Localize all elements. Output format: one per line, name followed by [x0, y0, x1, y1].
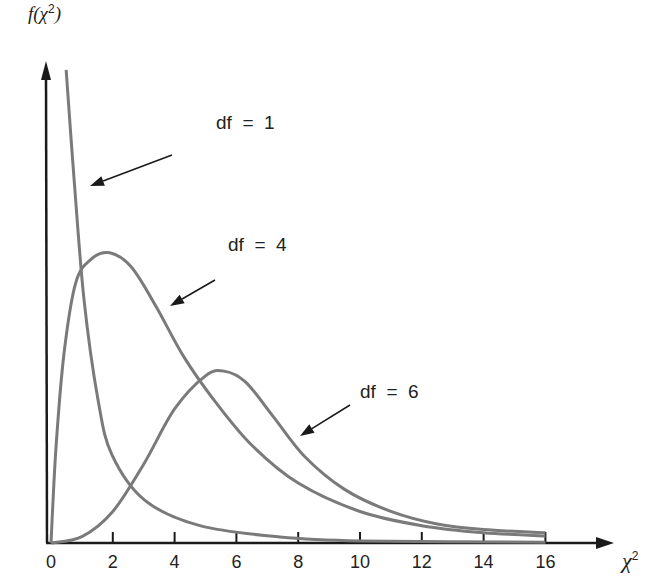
plot-area [0, 0, 670, 587]
arrowhead-icon [170, 295, 185, 306]
x-tick-label: 12 [412, 552, 432, 573]
annotation-arrow [103, 155, 172, 181]
annotation-label: df = 4 [228, 234, 287, 256]
chi-square-chart: f(χ2) χ2 0246810121416 df = 1df = 4df = … [0, 0, 670, 587]
curve-df-6 [51, 370, 545, 543]
x-tick-label: 6 [231, 552, 241, 573]
arrowhead-icon [90, 176, 105, 186]
arrowhead-icon [300, 424, 315, 436]
annotation-label: df = 1 [216, 112, 275, 134]
y-axis-arrow-icon [41, 61, 51, 80]
x-tick-label: 2 [108, 552, 118, 573]
x-tick-label: 10 [350, 552, 370, 573]
annotation-arrow [182, 280, 215, 299]
y-axis [46, 75, 47, 543]
x-tick-label: 8 [293, 552, 303, 573]
curve-df-4 [51, 252, 545, 543]
x-axis-label: χ2 [622, 548, 638, 574]
annotation-arrow [312, 405, 350, 429]
x-tick-label: 16 [535, 552, 555, 573]
annotation-label: df = 6 [360, 381, 419, 403]
x-tick-label: 0 [46, 552, 56, 573]
y-axis-label: f(χ2) [28, 2, 61, 25]
x-axis-arrow-icon [596, 537, 614, 549]
x-tick-label: 4 [170, 552, 180, 573]
x-tick-label: 14 [474, 552, 494, 573]
